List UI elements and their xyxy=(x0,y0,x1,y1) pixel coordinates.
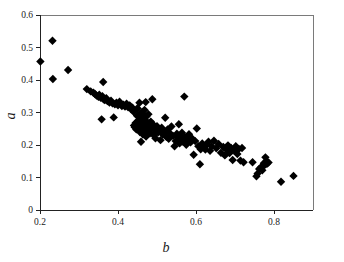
data-point-marker xyxy=(137,138,145,146)
plot-canvas: 00.10.20.30.40.50.6 0.20.40.60.8 b a xyxy=(0,0,344,262)
y-axis-ticks: 00.10.20.30.40.50.6 xyxy=(21,10,40,215)
data-point-marker xyxy=(48,36,56,44)
x-tick-label: 0.2 xyxy=(34,217,46,227)
y-tick-label: 0.3 xyxy=(21,108,33,118)
data-point-marker xyxy=(97,115,105,123)
data-point-marker xyxy=(99,78,107,86)
x-tick-label: 0.8 xyxy=(268,217,280,227)
data-point-marker xyxy=(36,57,44,65)
x-axis-ticks: 0.20.40.60.8 xyxy=(34,210,280,227)
data-point-marker xyxy=(193,124,201,132)
x-tick-label: 0.4 xyxy=(112,217,124,227)
data-point-marker xyxy=(161,114,169,122)
y-tick-label: 0.5 xyxy=(21,43,33,53)
data-point-marker xyxy=(289,172,297,180)
y-tick-label: 0.2 xyxy=(21,140,33,150)
data-point-marker xyxy=(196,160,204,168)
x-axis-title: b xyxy=(163,240,170,255)
data-point-layer xyxy=(36,36,298,185)
data-point-marker xyxy=(64,66,72,74)
plot-frame xyxy=(40,15,313,210)
data-point-marker xyxy=(49,75,57,83)
data-point-marker xyxy=(180,92,188,100)
y-tick-label: 0.4 xyxy=(21,75,33,85)
data-point-marker xyxy=(189,151,197,159)
data-point-marker xyxy=(277,178,285,186)
data-point-marker xyxy=(248,158,256,166)
axis-lines xyxy=(40,15,313,210)
data-point-marker xyxy=(175,120,183,128)
data-point-marker xyxy=(110,113,118,121)
y-tick-label: 0 xyxy=(28,205,33,215)
y-axis-title: a xyxy=(3,113,18,120)
x-tick-label: 0.6 xyxy=(190,217,202,227)
scatter-plot-figure: 00.10.20.30.40.50.6 0.20.40.60.8 b a xyxy=(0,0,344,262)
y-tick-label: 0.6 xyxy=(21,10,33,20)
y-tick-label: 0.1 xyxy=(21,173,33,183)
